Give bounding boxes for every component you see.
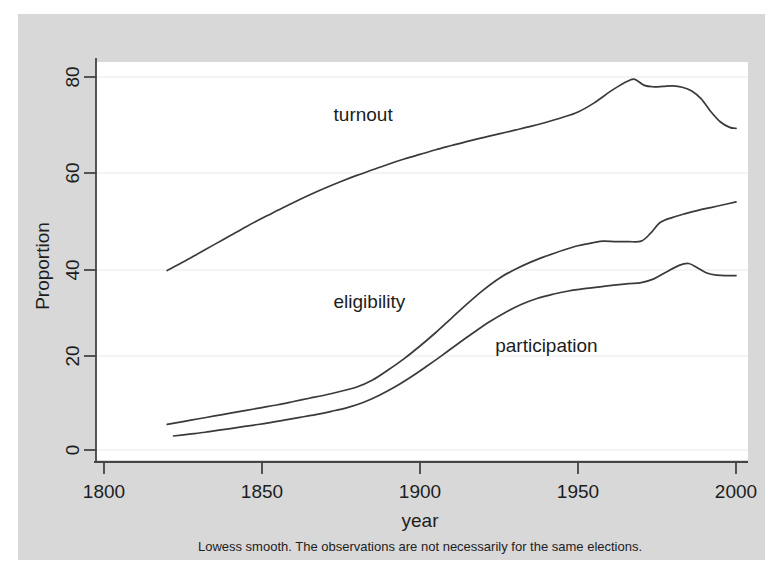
- x-tick-label-2000: 2000: [715, 481, 757, 502]
- y-axis-ticks: [84, 77, 96, 450]
- y-tick-label-80: 80: [62, 66, 83, 87]
- x-tick-label-1850: 1850: [241, 481, 283, 502]
- chart-container: 80 60 40 20 0 Proportion 1800 1850 1900 …: [0, 0, 781, 572]
- x-axis-ticks: [104, 462, 736, 474]
- series-label-turnout: turnout: [334, 104, 394, 125]
- x-axis-tick-labels: 1800 1850 1900 1950 2000: [83, 481, 757, 502]
- x-tick-label-1800: 1800: [83, 481, 125, 502]
- line-chart: 80 60 40 20 0 Proportion 1800 1850 1900 …: [0, 0, 781, 572]
- series-label-eligibility: eligibility: [334, 291, 406, 312]
- x-tick-label-1950: 1950: [557, 481, 599, 502]
- x-tick-label-1900: 1900: [399, 481, 441, 502]
- y-axis-tick-labels: 80 60 40 20 0: [62, 66, 83, 455]
- y-tick-label-20: 20: [62, 345, 83, 366]
- y-axis-title: Proportion: [32, 222, 53, 310]
- y-tick-label-60: 60: [62, 162, 83, 183]
- x-axis-title: year: [402, 510, 440, 531]
- chart-caption: Lowess smooth. The observations are not …: [198, 539, 642, 554]
- plot-area: [96, 62, 748, 460]
- series-label-participation: participation: [495, 335, 597, 356]
- y-tick-label-40: 40: [62, 259, 83, 280]
- y-tick-label-0: 0: [62, 445, 83, 456]
